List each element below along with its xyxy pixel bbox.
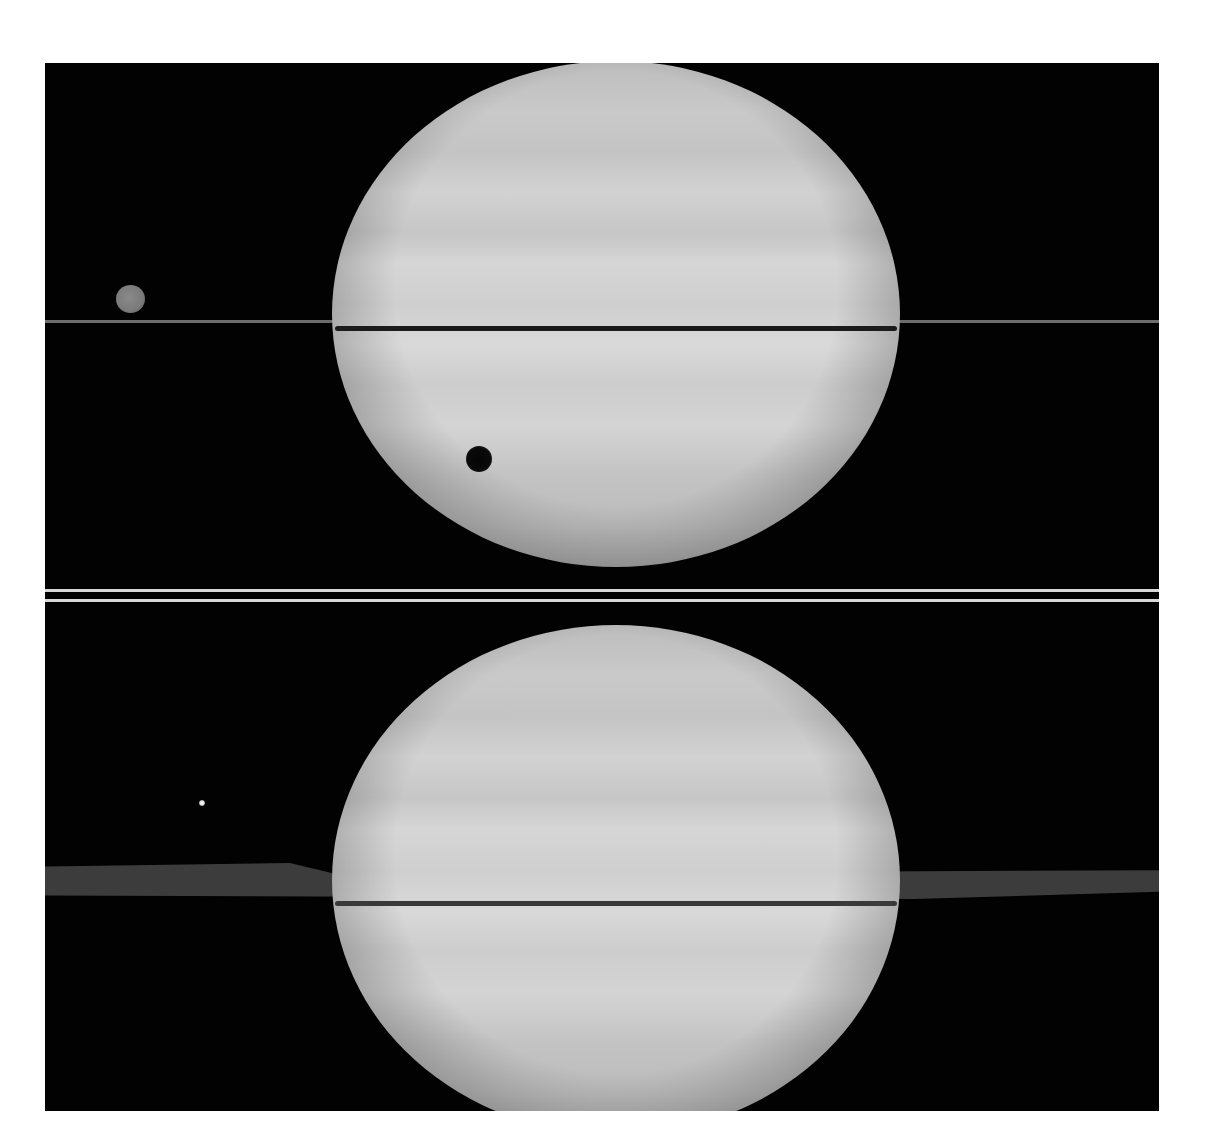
separator-line [45,589,1159,592]
separator-line [45,599,1159,602]
saturn-planet-top [332,63,900,567]
ring-shadow-band [335,326,897,331]
bottom-panel [45,605,1159,1111]
saturn-figure [45,63,1159,1111]
moon-point [199,800,205,806]
top-panel [45,63,1159,588]
moon-disk [116,285,145,313]
moon-shadow-transit [466,446,492,472]
saturn-planet-bottom [332,625,900,1111]
ring-shadow-band [335,901,897,906]
